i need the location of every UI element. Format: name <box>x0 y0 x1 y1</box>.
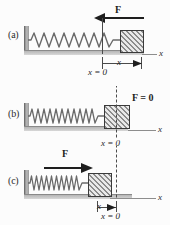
spring-a <box>28 31 120 49</box>
spring-c <box>28 174 88 192</box>
axis-label-c: x <box>158 192 162 202</box>
reference-line-c <box>116 146 117 198</box>
origin-label-c: x = 0 <box>101 211 120 221</box>
dim-arrowhead-a <box>131 59 143 68</box>
spring-b <box>28 107 104 125</box>
axis-a <box>142 54 157 55</box>
axis-label-b: x <box>158 124 162 134</box>
block-a <box>120 30 144 53</box>
displacement-label-a: x <box>117 57 121 67</box>
panel-b: (b) F = 0 x x = 0 <box>0 76 170 148</box>
axis-b <box>128 130 156 131</box>
axis-label-a: x <box>159 48 163 58</box>
leader-line-a <box>102 18 103 54</box>
axis-c <box>110 198 156 199</box>
spring-force-figure: (a) F x <box>0 0 170 225</box>
panel-a: (a) F x <box>0 0 170 78</box>
block-c <box>88 173 112 197</box>
panel-letter-b: (b) <box>8 108 19 119</box>
block-b <box>104 105 130 129</box>
force-arrow-c <box>44 160 94 176</box>
displacement-label-c: x <box>97 201 101 211</box>
panel-letter-a: (a) <box>8 29 19 40</box>
reference-line-b <box>116 86 117 138</box>
force-label-b: F = 0 <box>132 92 153 103</box>
force-label-c: F <box>62 148 68 159</box>
panel-c: (c) F x <box>0 146 170 225</box>
force-label-a: F <box>115 4 121 15</box>
panel-letter-c: (c) <box>8 175 19 186</box>
